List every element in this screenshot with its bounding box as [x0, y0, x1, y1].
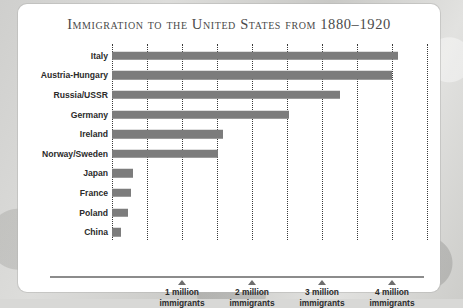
- x-tick-triangle-icon: [248, 280, 256, 285]
- category-label: Poland: [32, 208, 108, 218]
- x-tick-label: 4 millionimmigrants: [356, 287, 428, 308]
- x-tick-label-line1: 1 million: [146, 287, 218, 298]
- bar: [112, 130, 223, 139]
- bar: [112, 228, 121, 237]
- bar-row: Russia/USSR: [32, 85, 430, 105]
- x-tick-label-line1: 4 million: [356, 287, 428, 298]
- chart-title: Immigration to the United States from 18…: [18, 16, 440, 33]
- category-label: China: [32, 227, 108, 237]
- x-tick-label-line2: immigrants: [216, 298, 288, 308]
- bar: [112, 150, 218, 159]
- bar-row: Japan: [32, 164, 430, 184]
- x-tick-label: 2 millionimmigrants: [216, 287, 288, 308]
- bar-row: China: [32, 222, 430, 242]
- category-label: Ireland: [32, 129, 108, 139]
- x-tick-label-line2: immigrants: [286, 298, 358, 308]
- category-label: Austria-Hungary: [32, 70, 108, 80]
- category-label: Russia/USSR: [32, 90, 108, 100]
- x-tick-triangle-icon: [318, 280, 326, 285]
- x-tick-label: 1 millionimmigrants: [146, 287, 218, 308]
- bar-row: Ireland: [32, 124, 430, 144]
- chart-plot-area: ItalyAustria-HungaryRussia/USSRGermanyIr…: [32, 42, 430, 284]
- bar-row: Austria-Hungary: [32, 66, 430, 86]
- bar: [112, 208, 128, 217]
- bar-row: Italy: [32, 46, 430, 66]
- bar: [112, 110, 289, 119]
- bar-row: Poland: [32, 203, 430, 223]
- x-tick-label-line1: 2 million: [216, 287, 288, 298]
- category-label: Japan: [32, 168, 108, 178]
- x-axis-line: [50, 276, 424, 278]
- x-tick-label-line2: immigrants: [146, 298, 218, 308]
- x-tick-triangle-icon: [388, 280, 396, 285]
- bar: [112, 169, 133, 178]
- x-tick-label-line2: immigrants: [356, 298, 428, 308]
- category-label: Norway/Sweden: [32, 149, 108, 159]
- x-tick-label-line1: 3 million: [286, 287, 358, 298]
- bar-row: Germany: [32, 105, 430, 125]
- x-tick-label: 3 millionimmigrants: [286, 287, 358, 308]
- bar-row: Norway/Sweden: [32, 144, 430, 164]
- category-label: France: [32, 188, 108, 198]
- category-label: Germany: [32, 110, 108, 120]
- category-label: Italy: [32, 51, 108, 61]
- chart-card: Immigration to the United States from 18…: [18, 4, 440, 292]
- bar: [112, 71, 392, 80]
- bar-row: France: [32, 183, 430, 203]
- bar: [112, 91, 340, 100]
- bar: [112, 52, 398, 61]
- x-tick-triangle-icon: [178, 280, 186, 285]
- bar: [112, 189, 131, 198]
